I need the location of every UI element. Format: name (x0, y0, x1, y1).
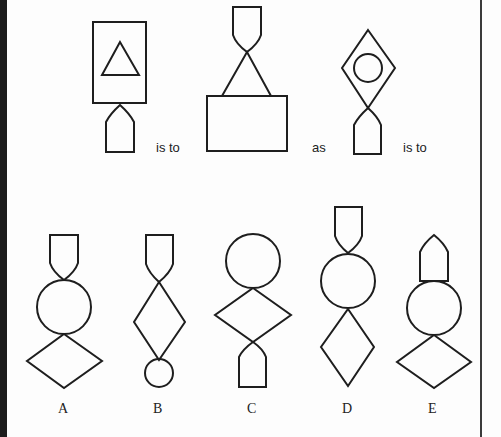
triangle-shape (222, 52, 271, 96)
stem-figure-2 (207, 7, 287, 151)
diamond-shape (215, 288, 291, 342)
stem-figure-3 (342, 30, 395, 154)
circle-shape (407, 281, 461, 335)
tall-diamond-shape (321, 309, 374, 386)
connector-is-to-1: is to (156, 140, 180, 155)
option-label: A (58, 401, 69, 416)
pentagon-arrow-shape (420, 235, 448, 281)
diamond-shape (27, 334, 102, 388)
circle-shape (226, 234, 280, 288)
diamond-shape (342, 30, 395, 108)
option-e[interactable]: E (397, 235, 471, 416)
diamond-shape (397, 335, 471, 388)
option-b[interactable]: B (134, 235, 185, 416)
analogy-diagram: is to as is to A B (0, 0, 501, 437)
pentagon-arrow-shape (106, 105, 134, 152)
circle-shape (321, 254, 375, 308)
diamond-shape (134, 282, 185, 360)
pentagon-arrow-shape (239, 342, 266, 387)
circle-shape (37, 280, 91, 334)
option-label: C (247, 401, 256, 416)
shield-shape (146, 235, 173, 282)
option-c[interactable]: C (215, 234, 291, 416)
small-circle-shape (145, 359, 173, 387)
circle-shape (354, 54, 382, 82)
connector-as: as (312, 140, 326, 155)
puzzle-page: is to as is to A B (0, 0, 501, 437)
stem-figure-1 (93, 22, 146, 152)
shield-shape (50, 235, 78, 280)
rectangle-shape (207, 96, 287, 151)
option-a[interactable]: A (27, 235, 102, 416)
option-label: B (153, 401, 162, 416)
option-d[interactable]: D (321, 207, 375, 416)
option-label: E (428, 401, 437, 416)
pentagon-arrow-shape (354, 108, 381, 154)
connector-is-to-2: is to (403, 140, 427, 155)
shield-shape (233, 7, 261, 52)
shield-shape (335, 207, 362, 253)
rectangle-shape (93, 22, 146, 103)
option-label: D (342, 401, 352, 416)
triangle-shape (102, 42, 139, 75)
